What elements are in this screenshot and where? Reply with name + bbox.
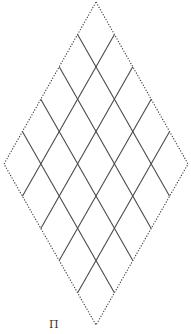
grid-lines [22, 34, 169, 292]
grid-line-descending-1 [78, 34, 170, 196]
grid-line-descending-2 [59, 67, 151, 229]
grid-line-descending-4 [22, 132, 114, 293]
figure-label: Π [49, 319, 59, 330]
rhombus-grid-diagram [0, 0, 191, 334]
grid-line-descending-3 [41, 99, 133, 260]
grid-line-ascending-1 [22, 34, 114, 196]
grid-line-ascending-2 [41, 67, 133, 229]
grid-line-ascending-3 [59, 99, 151, 260]
grid-line-ascending-4 [78, 132, 170, 293]
rhombus-outline [4, 2, 188, 325]
